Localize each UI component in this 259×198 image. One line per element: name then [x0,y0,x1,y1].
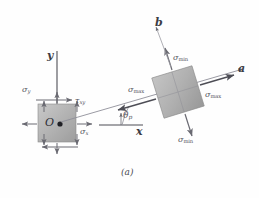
sigma-min-subscript: min [178,56,187,62]
sigma-x-subscript: x [85,130,88,136]
sigma-max-subscript: max [133,88,144,94]
stress-transformation-figure: y x a b θp O σy σx τxy σmax σmax σmin σm… [0,0,259,198]
tau-xy-subscript: xy [79,99,85,105]
a-axis-label: a [238,63,245,74]
sigma-y-subscript: y [27,88,30,94]
x-axis-label: x [136,126,143,137]
y-axis-label: y [47,50,53,61]
origin-label: O [45,117,54,128]
b-axis-label: b [155,17,163,28]
sigma-min-bottom-label: σmin [178,136,193,144]
sigma-max-subscript: max [210,93,221,99]
sigma-max-right-label: σmax [205,91,221,99]
figure-caption: (a) [121,168,133,177]
sigma-x-label: σx [80,128,88,136]
rotated-stress-element [152,66,204,118]
theta-p-label: θp [123,111,132,120]
sigma-min-subscript: min [183,138,192,144]
sigma-y-label: σy [22,86,30,94]
tau-xy-label: τxy [75,97,85,105]
sigma-min-top-label: σmin [173,54,188,62]
theta-subscript: p [128,113,132,120]
sigma-max-left-label: σmax [128,86,144,94]
b-axis-line [156,27,171,67]
